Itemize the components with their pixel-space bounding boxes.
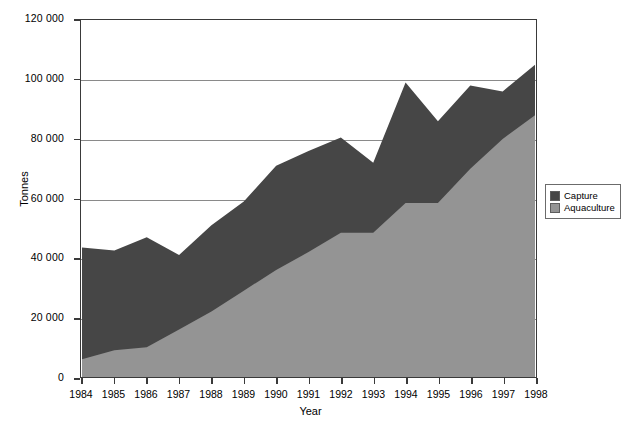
stacked-area-series [81, 20, 536, 377]
legend-item-label: Aquaculture [564, 202, 615, 213]
legend-swatch-icon [550, 191, 560, 201]
x-tick-mark [81, 378, 83, 384]
x-tick-mark [471, 378, 473, 384]
y-tick-label: 20 000 [31, 312, 64, 323]
y-axis: 120 000100 00080 00060 00040 00020 0000 [0, 0, 74, 427]
x-tick-mark [439, 378, 441, 384]
x-tick-mark [309, 378, 311, 384]
x-tick-mark [179, 378, 181, 384]
legend-item-capture[interactable]: Capture [550, 190, 615, 201]
legend-item-label: Capture [564, 190, 598, 201]
x-tick-mark [341, 378, 343, 384]
x-tick-mark [146, 378, 148, 384]
y-tick-label: 0 [58, 372, 64, 383]
legend-swatch-icon [550, 203, 560, 213]
y-tick-label: 60 000 [31, 193, 64, 204]
y-tick-label: 40 000 [31, 252, 64, 263]
y-tick-label: 100 000 [25, 73, 64, 84]
y-tick-mark [74, 378, 80, 380]
x-tick-mark [211, 378, 213, 384]
y-tick-label: 80 000 [31, 133, 64, 144]
x-tick-mark [536, 378, 538, 384]
x-tick-mark [374, 378, 376, 384]
legend: CaptureAquaculture [545, 184, 621, 219]
x-tick-mark [406, 378, 408, 384]
area-chart: Tonnes 120 000100 00080 00060 00040 0002… [0, 0, 621, 427]
x-tick-label: 1998 [516, 388, 556, 400]
x-axis-title: Year [0, 405, 621, 417]
y-tick-label: 120 000 [25, 13, 64, 24]
plot-area [80, 19, 537, 378]
x-tick-mark [114, 378, 116, 384]
x-tick-mark [504, 378, 506, 384]
legend-item-aquaculture[interactable]: Aquaculture [550, 202, 615, 213]
x-tick-mark [276, 378, 278, 384]
x-tick-mark [244, 378, 246, 384]
